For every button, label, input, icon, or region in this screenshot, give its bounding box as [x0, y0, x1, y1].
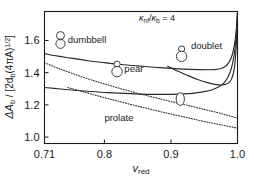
x-tick-label: 1.0: [230, 148, 245, 160]
y-axis-title-close: ]: [4, 35, 15, 38]
y-axis-title-delta: ΔA: [3, 104, 15, 120]
x-tick-label: 0.8: [97, 148, 112, 160]
y-axis-title-mid: / [2d: [4, 78, 15, 100]
chart-figure: 0.710.80.91.0 1.01.21.41.6 dumbbellprola…: [0, 0, 254, 179]
x-axis-title-sub: red: [138, 167, 150, 176]
curve-label-pear: pear: [124, 63, 143, 74]
y-tick-label: 1.4: [24, 67, 39, 79]
chart-canvas: 0.710.80.91.0 1.01.21.41.6 dumbbellprola…: [0, 0, 254, 179]
y-tick-label: 1.2: [24, 99, 39, 111]
x-tick-label: 0.71: [34, 148, 55, 160]
y-axis-title-tail: (4πA): [4, 48, 15, 74]
curve-label-doublet: doublet: [191, 40, 223, 51]
dumbbell-icon: [56, 32, 65, 49]
y-tick-label: 1.6: [24, 34, 39, 46]
annot-equals: = 4: [160, 13, 175, 23]
y-tick-label: 1.0: [24, 131, 39, 143]
x-tick-label: 0.9: [163, 148, 178, 160]
y-axis-title-exp: 1/2: [4, 38, 11, 48]
prolate-icon: [176, 93, 184, 106]
curve-label-prolate: prolate: [104, 112, 133, 123]
curve-label-dumbbell: dumbbell: [68, 34, 107, 45]
